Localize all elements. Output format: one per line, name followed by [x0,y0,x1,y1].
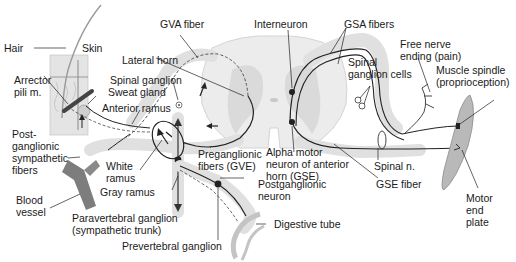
label-muscle-spindle: Muscle spindle (proprioception) [436,64,510,88]
label-anterior-ramus: Anterior ramus [102,102,171,114]
label-motor-end-plate: Motor end plate [466,192,493,228]
label-free-nerve-ending: Free nerve ending (pain) [400,38,461,62]
label-spinal-ganglion: Spinal ganglion [110,74,182,86]
label-postganglionic-sympathetic-fibers: Post- ganglionic sympathetic fibers [12,128,68,176]
sweat-gland [78,105,90,117]
label-sweat-gland: Sweat gland [108,86,166,98]
label-preganglionic-fibers: Preganglionic fibers (GVE) [198,148,262,172]
muscle-shape [442,95,474,190]
label-spinal-n: Spinal n. [374,160,415,172]
label-prevertebral-ganglion: Prevertebral ganglion [122,240,222,252]
interneuron-cell [289,89,295,95]
label-arrector-pili: Arrector pili m. [14,74,51,98]
label-paravertebral-ganglion: Paravertebral ganglion (sympathetic trun… [72,212,178,236]
label-hair: Hair [4,42,23,54]
splanchnic-path [180,166,250,228]
label-interneuron: Interneuron [254,18,308,30]
postganglionic-neuron-cell [215,181,222,188]
spinal-nerve-diagram: Hair Skin Arrector pili m. Sweat gland P… [0,0,516,262]
label-lateral-horn: Lateral horn [122,54,178,66]
label-alpha-motor-neuron: Alpha motor neuron of anterior horn (GSE… [266,146,349,182]
label-blood-vessel: Blood vessel [16,194,46,218]
label-skin: Skin [82,42,102,54]
label-gva-fiber: GVA fiber [160,18,204,30]
label-gse-fiber: GSE fiber [376,178,422,190]
label-digestive-tube: Digestive tube [274,218,341,230]
label-gray-ramus: Gray ramus [100,186,155,198]
muscle-spindle-marker [456,123,460,129]
label-gsa-fibers: GSA fibers [344,18,394,30]
label-white-ramus: White ramus [106,160,135,184]
